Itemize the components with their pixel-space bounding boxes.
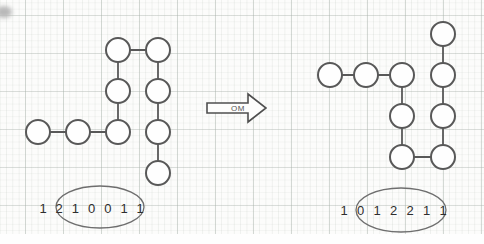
sequence-digit: 1 [137,201,144,216]
lattice-node [146,38,170,62]
lattice-node [106,120,130,144]
page-bottom-margin [0,234,484,244]
sequence-digit: 1 [120,201,127,216]
lattice-node [431,63,455,87]
lattice-node [431,22,455,46]
lattice-node [431,104,455,128]
lattice-node [106,38,130,62]
lattice-node [318,63,342,87]
lattice-node [146,79,170,103]
transform-arrow: OM [207,94,266,122]
sequence-ellipse [356,188,446,232]
transform-arrow-label: OM [231,104,245,113]
sequence-digit: 2 [390,203,397,218]
sequence-digit: 2 [56,201,63,216]
sequence-digit: 1 [72,201,79,216]
sequence-ellipse [56,186,144,228]
sequence-digit: 0 [357,203,364,218]
lattice-figure: 12100111012211 OM [0,0,484,244]
lattice-node [354,63,378,87]
lattice-node [146,161,170,185]
lattice-node [26,120,50,144]
initial-conformation: 1210011 [26,38,170,228]
sequence-digit: 1 [439,203,446,218]
lattice-node [66,120,90,144]
lattice-node [431,145,455,169]
sequence-digit: 1 [39,201,46,216]
sequence-digit: 1 [423,203,430,218]
lattice-node [390,104,414,128]
sequence-digit: 1 [373,203,380,218]
transformed-conformation: 1012211 [318,22,455,232]
lattice-node [106,79,130,103]
sequence-digit: 2 [406,203,413,218]
lattice-node [390,63,414,87]
sequence-digit: 0 [88,201,95,216]
conformations-group: 12100111012211 [26,22,455,232]
sequence-digit: 1 [340,203,347,218]
sequence-digit: 0 [104,201,111,216]
lattice-node [390,145,414,169]
lattice-node [146,120,170,144]
figure-canvas: 12100111012211 OM [0,0,484,244]
